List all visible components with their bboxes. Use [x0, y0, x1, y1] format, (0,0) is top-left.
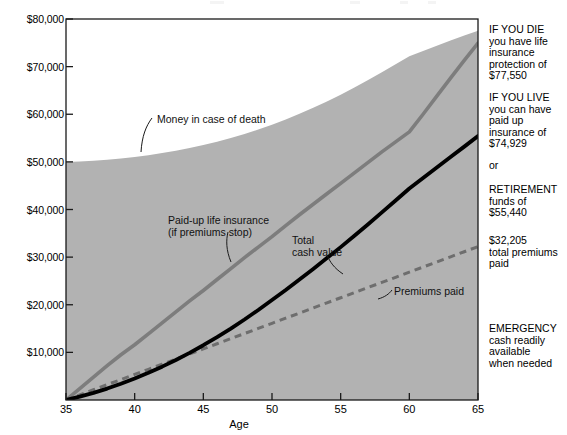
y-tick-label: $70,000 [2, 62, 64, 73]
x-tick-label: 60 [403, 403, 415, 416]
if-you-live-amount: $74,929 [489, 138, 567, 150]
side-block-emergency: EMERGENCY cash readily available when ne… [489, 323, 567, 369]
retirement-amount: $55,440 [489, 207, 567, 219]
x-tick-label: 55 [335, 403, 347, 416]
x-tick-label: 50 [266, 403, 278, 416]
x-tick-label: 45 [197, 403, 209, 416]
y-tick-label: $40,000 [2, 205, 64, 216]
annotation-death-benefit: Money in case of death [157, 113, 266, 125]
annotation-paid-up-line2: (if premiums stop) [168, 226, 252, 238]
emergency-line3: when needed [489, 358, 567, 370]
side-block-premiums-total: $32,205 total premiums paid [489, 235, 567, 270]
life-insurance-value-chart: $80,000 $70,000 $60,000 $50,000 $40,000 … [0, 0, 567, 435]
x-tick-label: 65 [472, 403, 484, 416]
annotation-paid-up-line1: Paid-up life insurance [168, 214, 269, 226]
y-axis-labels: $80,000 $70,000 $60,000 $50,000 $40,000 … [0, 0, 64, 435]
annotation-premiums-paid: Premiums paid [394, 285, 464, 297]
side-block-or: or [489, 160, 567, 172]
y-tick-label: $60,000 [2, 109, 64, 120]
or-connector: or [489, 160, 567, 172]
retirement-heading: RETIREMENT [489, 184, 567, 196]
y-tick-label: $30,000 [2, 252, 64, 263]
x-axis-title: Age [0, 418, 478, 430]
premiums-total-line2: paid [489, 258, 567, 270]
annotation-total-cash-line2: cash value [292, 246, 342, 258]
side-block-retirement: RETIREMENT funds of $55,440 [489, 184, 567, 219]
if-you-die-amount: $77,550 [489, 70, 567, 82]
side-block-if-you-die: IF YOU DIE you have life insurance prote… [489, 24, 567, 82]
premiums-total-amount: $32,205 [489, 235, 567, 247]
y-tick-label: $80,000 [2, 14, 64, 25]
x-tick-label: 40 [129, 403, 141, 416]
x-axis-labels: 35 40 45 50 55 60 65 [0, 403, 567, 419]
side-block-if-you-live: IF YOU LIVE you can have paid up insuran… [489, 92, 567, 150]
emergency-heading: EMERGENCY [489, 323, 567, 335]
x-tick-label: 35 [60, 403, 72, 416]
annotation-total-cash-line1: Total [292, 234, 314, 246]
if-you-live-heading: IF YOU LIVE [489, 92, 567, 104]
y-tick-label: $20,000 [2, 300, 64, 311]
if-you-die-heading: IF YOU DIE [489, 24, 567, 36]
plot-area [0, 0, 567, 435]
y-tick-label: $50,000 [2, 157, 64, 168]
side-annotations-panel: IF YOU DIE you have life insurance prote… [489, 0, 567, 435]
y-tick-label: $10,000 [2, 347, 64, 358]
